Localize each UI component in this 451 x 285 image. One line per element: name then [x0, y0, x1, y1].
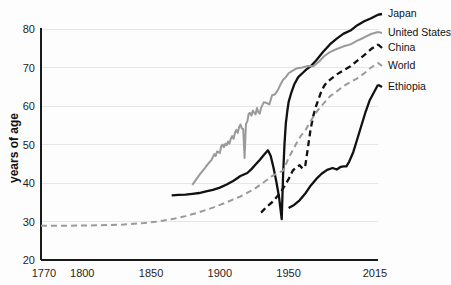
- y-tick-label-80: 80: [23, 23, 35, 35]
- legend: JapanUnited StatesChinaWorldEthiopia: [378, 7, 451, 92]
- chart-container: 20304050607080 177018001850190019502015 …: [0, 0, 451, 285]
- series-group: [41, 15, 378, 226]
- series-line-ethiopia: [289, 85, 378, 208]
- legend-label-ethiopia: Ethiopia: [388, 80, 426, 92]
- x-tick-label-1900: 1900: [208, 267, 232, 279]
- x-tick-label-1950: 1950: [276, 267, 300, 279]
- legend-leader-united-states: [378, 32, 382, 33]
- x-axis-tick-labels: 177018001850190019502015: [32, 267, 387, 279]
- x-tick-label-2015: 2015: [363, 267, 387, 279]
- y-tick-label-60: 60: [23, 100, 35, 112]
- legend-leader-japan: [378, 14, 382, 15]
- y-axis-tick-labels: 20304050607080: [23, 23, 35, 266]
- legend-label-world: World: [388, 59, 415, 71]
- legend-leader-china: [378, 44, 382, 48]
- y-tick-label-70: 70: [23, 62, 35, 74]
- life-expectancy-line-chart: 20304050607080 177018001850190019502015 …: [0, 0, 451, 285]
- x-tick-label-1850: 1850: [139, 267, 163, 279]
- y-tick-label-40: 40: [23, 177, 35, 189]
- y-tick-label-50: 50: [23, 139, 35, 151]
- y-axis-title: years of age: [7, 113, 21, 183]
- x-tick-label-1770: 1770: [32, 267, 56, 279]
- x-tick-label-1800: 1800: [70, 267, 94, 279]
- gridlines-group: [41, 29, 378, 222]
- legend-leader-ethiopia: [378, 85, 382, 87]
- legend-label-china: China: [388, 41, 416, 53]
- legend-label-united-states: United States: [388, 26, 451, 38]
- legend-leader-world: [378, 63, 382, 66]
- y-tick-label-30: 30: [23, 216, 35, 228]
- legend-label-japan: Japan: [388, 7, 417, 19]
- y-tick-label-20: 20: [23, 254, 35, 266]
